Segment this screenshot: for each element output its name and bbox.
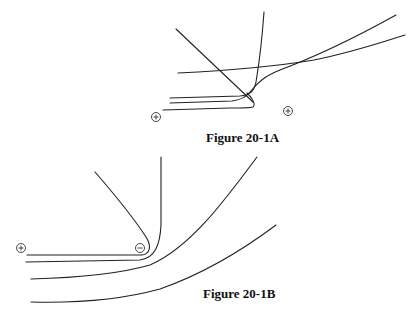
figure-a-positive-charge-right	[284, 107, 293, 116]
figure-b-caption: Figure 20-1B	[203, 286, 275, 302]
figure-b-hairpin-line	[27, 172, 149, 255]
figure-a-rising-bend-line	[170, 15, 396, 103]
figure-b-positive-charge	[17, 244, 26, 253]
figure-a-diagonal-line	[176, 29, 253, 102]
figure-b-negative-charge	[136, 244, 145, 253]
figure-a-steep-bend-line	[170, 12, 264, 98]
figure-a-positive-charge-left	[152, 113, 161, 122]
diagram-canvas	[0, 0, 415, 315]
figure-20-1a-lines	[163, 12, 405, 110]
figure-b-middle-curve	[31, 157, 257, 279]
figure-20-1b-lines	[26, 157, 276, 302]
figure-a-caption: Figure 20-1A	[206, 130, 279, 146]
figure-a-flat-line	[178, 35, 405, 73]
